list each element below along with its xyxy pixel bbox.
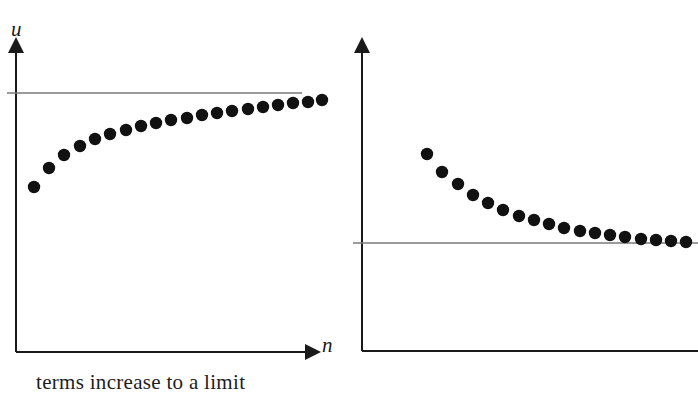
- y-axis-label: u: [11, 19, 22, 40]
- sequence-limits-figure: u n terms increase to a limit: [0, 0, 698, 410]
- caption-terms-increase: terms increase to a limit: [36, 372, 245, 393]
- panel-terms-increase: u n terms increase to a limit: [0, 0, 350, 410]
- panel-terms-decrease: u terms decrease to a limit: [348, 0, 698, 410]
- decreasing-sequence-plot: [348, 0, 698, 360]
- x-axis-label: n: [322, 335, 333, 356]
- increasing-sequence-plot: [0, 0, 350, 360]
- data-points: [28, 94, 328, 193]
- data-points: [421, 148, 692, 248]
